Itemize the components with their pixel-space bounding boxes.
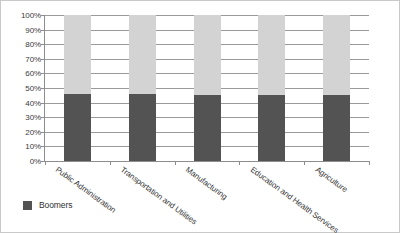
legend-label-boomers: Boomers: [39, 200, 72, 210]
bar-stack[interactable]: [129, 15, 156, 161]
bar-segment-remainder[interactable]: [194, 15, 221, 95]
bar-segment-boomers[interactable]: [64, 94, 91, 161]
x-axis-labels: Public AdministrationTransportation and …: [45, 161, 369, 233]
plot-area-wrapper: [45, 15, 369, 161]
bar-segment-boomers[interactable]: [323, 95, 350, 161]
x-tick-label: Manufacturing: [184, 165, 229, 201]
bar-segment-boomers[interactable]: [258, 95, 285, 161]
legend-swatch-boomers: [23, 201, 32, 210]
y-tick-label: 70%: [25, 54, 41, 63]
bar-segment-boomers[interactable]: [129, 94, 156, 161]
y-tick-label: 50%: [25, 84, 41, 93]
y-tick-label: 100%: [21, 11, 41, 20]
bar-segment-remainder[interactable]: [64, 15, 91, 94]
chart-container: 100%90%80%70%60%50%40%30%20%10%0% Public…: [0, 0, 400, 233]
y-tick-label: 40%: [25, 98, 41, 107]
y-tick-label: 30%: [25, 113, 41, 122]
y-tick-label: 0%: [30, 157, 41, 166]
y-axis-line: [44, 15, 45, 161]
y-tick-label: 80%: [25, 40, 41, 49]
bar-stack[interactable]: [323, 15, 350, 161]
bar-stack[interactable]: [258, 15, 285, 161]
bar-segment-boomers[interactable]: [194, 95, 221, 161]
y-tick-label: 20%: [25, 127, 41, 136]
y-tick-label: 10%: [25, 142, 41, 151]
y-tick-label: 90%: [25, 25, 41, 34]
y-axis-labels: 100%90%80%70%60%50%40%30%20%10%0%: [1, 15, 41, 161]
x-tick-label: Agriculture: [313, 165, 348, 194]
chart-legend: Boomers: [23, 200, 72, 210]
bar-segment-remainder[interactable]: [129, 15, 156, 94]
bar-stack[interactable]: [64, 15, 91, 161]
bar-segment-remainder[interactable]: [323, 15, 350, 95]
bar-segment-remainder[interactable]: [258, 15, 285, 95]
plot-area: [45, 15, 369, 161]
bar-stack[interactable]: [194, 15, 221, 161]
y-tick-label: 60%: [25, 69, 41, 78]
